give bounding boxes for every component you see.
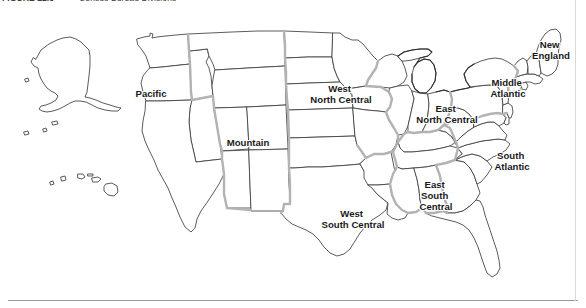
division-label-enc-line-2: North Central (416, 114, 477, 125)
division-label-ne-line-1: New (540, 39, 560, 50)
division-label-middle-atlantic: Middle Atlantic (490, 77, 526, 99)
state-new-mexico (249, 149, 290, 211)
state-oklahoma (289, 136, 366, 168)
division-label-mountain-line-1: Mountain (227, 137, 270, 148)
figure-right-rule (575, 0, 576, 301)
alaska-outline (31, 37, 121, 112)
division-label-wnc-line-1: West (328, 83, 352, 94)
state-south-dakota (285, 57, 340, 84)
division-label-south-atlantic: South Atlantic (494, 150, 530, 172)
figure-caption-label: FIGURE 22.5 (2, 0, 54, 3)
division-label-wsc-line-2: South Central (322, 219, 385, 230)
division-label-new-england: New England (532, 39, 570, 61)
division-label-pacific: Pacific (136, 88, 168, 99)
division-label-wnc-line-2: North Central (310, 94, 371, 105)
division-label-pacific-line-1: Pacific (136, 88, 168, 99)
division-label-esc-line-1: East (425, 179, 446, 190)
alaska-island-1 (25, 78, 29, 82)
state-kansas (288, 108, 355, 138)
division-label-sa-line-1: South (497, 150, 524, 161)
division-label-esc-line-3: Central (419, 201, 452, 212)
state-north-dakota (284, 31, 333, 58)
hawaii-molokai (88, 174, 93, 176)
division-label-ne-line-2: England (532, 50, 570, 61)
hawaii-oahu (78, 174, 85, 179)
alaska-island-4 (43, 128, 47, 132)
alaska-inset (24, 37, 121, 135)
division-label-mountain: Mountain (227, 137, 270, 148)
hawaii-maui (92, 177, 101, 182)
hawaii-inset (50, 174, 118, 196)
figure-bottom-rule (8, 300, 578, 301)
hawaii-island-small (50, 181, 54, 185)
state-wyoming (212, 66, 286, 108)
state-washington (137, 33, 190, 68)
figure-caption: FIGURE 22.5 Census Bureau Divisions (2, 0, 176, 3)
figure-root: FIGURE 22.5 Census Bureau Divisions Unit… (0, 0, 586, 308)
division-label-wsc-line-1: West (340, 208, 364, 219)
hawaii-bigisland (104, 183, 118, 196)
hawaii-kauai (61, 176, 66, 181)
figure-caption-title: Census Bureau Divisions (79, 0, 176, 3)
alaska-island-3 (24, 131, 29, 135)
alaska-island-2 (52, 121, 58, 125)
division-label-esc-line-2: South (421, 190, 448, 201)
division-label-ma-line-2: Atlantic (490, 88, 526, 99)
division-label-enc-line-1: East (436, 103, 457, 114)
division-label-ma-line-1: Middle (491, 77, 521, 88)
division-label-sa-line-2: Atlantic (494, 161, 530, 172)
us-census-divisions-map: United States Census Bureau Divisions (0, 4, 586, 290)
